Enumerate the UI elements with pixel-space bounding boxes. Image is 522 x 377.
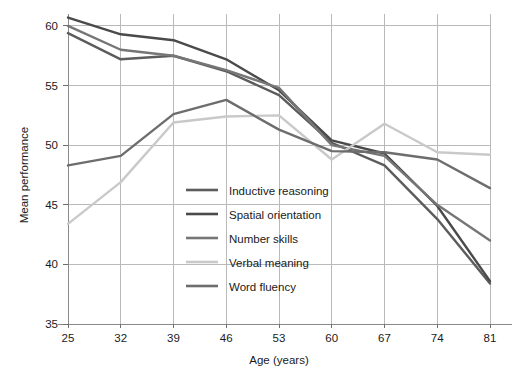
x-tick-label: 60 <box>325 332 338 344</box>
x-tick-label: 39 <box>167 332 180 344</box>
legend-label-word-fluency[interactable]: Word fluency <box>229 281 296 293</box>
y-tick-label: 45 <box>45 199 58 211</box>
legend-label-number-skills[interactable]: Number skills <box>229 233 298 245</box>
y-tick-label: 35 <box>45 318 58 330</box>
x-tick-label: 67 <box>378 332 391 344</box>
y-tick-label: 60 <box>45 20 58 32</box>
x-tick-label: 25 <box>62 332 75 344</box>
legend-label-verbal-meaning[interactable]: Verbal meaning <box>229 257 309 269</box>
x-tick-label: 53 <box>273 332 286 344</box>
chart-canvas: 354045505560 253239465360677481 Inductiv… <box>0 0 522 377</box>
x-tick-label: 32 <box>114 332 127 344</box>
legend-label-spatial-orientation[interactable]: Spatial orientation <box>229 209 321 221</box>
legend-label-inductive-reasoning[interactable]: Inductive reasoning <box>229 185 329 197</box>
y-tick-label: 50 <box>45 139 58 151</box>
y-tick-label: 55 <box>45 80 58 92</box>
x-tick-label: 81 <box>484 332 497 344</box>
y-tick-label: 40 <box>45 258 58 270</box>
x-axis-title: Age (years) <box>249 354 309 366</box>
x-tick-label: 46 <box>220 332 233 344</box>
chart-legend: Inductive reasoningSpatial orientationNu… <box>186 185 329 293</box>
x-axis-tick-labels: 253239465360677481 <box>62 332 497 344</box>
y-axis-title: Mean performance <box>18 127 30 224</box>
axis-lines <box>58 14 512 324</box>
y-axis-tick-labels: 354045505560 <box>45 20 58 330</box>
x-tick-label: 74 <box>431 332 444 344</box>
line-chart: 354045505560 253239465360677481 Inductiv… <box>0 0 522 377</box>
